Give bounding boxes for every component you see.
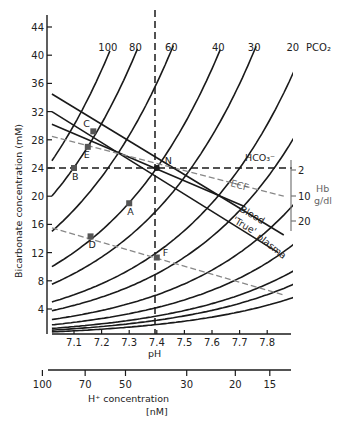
y-tick-label: 16 bbox=[31, 219, 44, 230]
point-b-label: B bbox=[72, 171, 79, 182]
hb-unit-label: g/dl bbox=[314, 195, 332, 206]
point-n-marker bbox=[154, 165, 160, 171]
x-tick-label: 7.5 bbox=[176, 337, 192, 348]
y-tick-label: 36 bbox=[31, 78, 44, 89]
pco2-labels: 1008060403020 bbox=[98, 42, 299, 53]
point-c-marker bbox=[90, 128, 96, 134]
x-tick-label: 7.6 bbox=[204, 337, 220, 348]
h-ion-tick-label: 70 bbox=[79, 379, 92, 390]
hb-tick-label: 20 bbox=[298, 216, 311, 227]
pco2-label-60: 60 bbox=[165, 42, 178, 53]
point-e-label: E bbox=[84, 149, 90, 160]
y-tick-label: 24 bbox=[31, 163, 44, 174]
pco2-isopleth-20 bbox=[52, 69, 295, 302]
hco3-line-label: HCO₃⁻ bbox=[245, 152, 275, 163]
pco2-isopleth-80 bbox=[52, 49, 138, 196]
h-ion-tick-label: 20 bbox=[229, 379, 242, 390]
buffer-line-hco3- bbox=[52, 124, 245, 206]
pco2-isopleth-30 bbox=[52, 46, 256, 284]
y-tick-label: 32 bbox=[31, 107, 44, 118]
y-tick-label: 40 bbox=[31, 50, 44, 61]
true-plasma-label-2: plasma bbox=[255, 231, 289, 261]
x-tick-label: 7.8 bbox=[259, 337, 275, 348]
pco2-label-20: 20 bbox=[286, 42, 299, 53]
h-ion-axis-label: H⁺ concentration bbox=[88, 393, 169, 404]
hb-tick-label: 2 bbox=[298, 165, 304, 176]
y-tick-label: 20 bbox=[31, 191, 44, 202]
hb-scale-ticks: 21020 bbox=[291, 165, 311, 227]
pco2-label-30: 30 bbox=[248, 42, 261, 53]
y-tick-label: 12 bbox=[31, 248, 44, 259]
pco2-title: PCO₂ bbox=[306, 42, 331, 53]
ecf-line-label: ECF bbox=[229, 177, 249, 193]
hb-tick-label: 10 bbox=[298, 191, 311, 202]
pco2-label-80: 80 bbox=[129, 42, 142, 53]
pco2-isopleth-3 bbox=[52, 297, 295, 332]
point-a-label: A bbox=[127, 206, 134, 217]
y-tick-label: 28 bbox=[31, 135, 44, 146]
hb-label: Hb bbox=[316, 183, 329, 194]
h-ion-tick-label: 30 bbox=[180, 379, 193, 390]
x-tick-label: 7.2 bbox=[94, 337, 110, 348]
y-tick-label: 4 bbox=[38, 304, 44, 315]
buffer-line-metabolic-line bbox=[52, 228, 284, 295]
x-tick-label: 7.7 bbox=[232, 337, 248, 348]
x-tick-label: 7.1 bbox=[66, 337, 82, 348]
h-ion-axis-unit: [nM] bbox=[146, 406, 168, 417]
point-d-label: D bbox=[89, 239, 96, 250]
h-ion-tick-label: 50 bbox=[119, 379, 132, 390]
pco2-label-100: 100 bbox=[98, 42, 117, 53]
x-axis-label: pH bbox=[148, 348, 161, 359]
acid-base-nomogram: 48121620242832364044 7.17.27.37.47.57.67… bbox=[0, 0, 348, 434]
y-axis-label: Bicarbonate concentration (mM) bbox=[13, 124, 24, 278]
x-tick-label: 7.3 bbox=[121, 337, 137, 348]
point-f-marker bbox=[154, 255, 160, 261]
point-n-label: N bbox=[165, 155, 172, 166]
pco2-isopleths bbox=[52, 46, 295, 332]
figure-caption-cropped bbox=[38, 424, 348, 434]
h-ion-axis-ticks: 1007050302015 bbox=[33, 370, 276, 390]
y-tick-label: 44 bbox=[31, 22, 44, 33]
x-tick-label: 7.4 bbox=[149, 337, 165, 348]
point-f-label: F bbox=[163, 247, 168, 258]
pco2-label-40: 40 bbox=[212, 42, 225, 53]
point-c-label: C bbox=[83, 118, 90, 129]
h-ion-tick-label: 100 bbox=[33, 379, 52, 390]
x-axis-ticks: 7.17.27.37.47.57.67.77.8 bbox=[66, 330, 275, 348]
y-tick-label: 8 bbox=[38, 276, 44, 287]
h-ion-tick-label: 15 bbox=[263, 379, 276, 390]
